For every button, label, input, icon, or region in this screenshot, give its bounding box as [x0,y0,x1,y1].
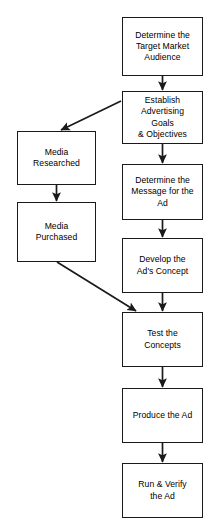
node-label: Develop the Ad's Concept [134,254,191,276]
node-develop-ads-concept[interactable]: Develop the Ad's Concept [122,238,203,293]
flowchart-canvas: Determine the Target Market Audience Est… [0,0,222,527]
node-label: Establish Advertising Goals & Objectives [135,95,190,140]
node-produce-the-ad[interactable]: Produce the Ad [122,388,203,443]
node-label: Run & Verify the Ad [135,479,189,501]
node-label: Media Researched [30,147,83,169]
connector-establish-to-media-researched [61,101,121,130]
node-determine-target-market-audience[interactable]: Determine the Target Market Audience [122,17,203,76]
node-label: Media Purchased [33,221,81,243]
node-determine-message-for-the-ad[interactable]: Determine the Message for the Ad [122,164,203,220]
node-run-and-verify-the-ad[interactable]: Run & Verify the Ad [122,463,203,518]
node-label: Test the Concepts [141,328,184,350]
node-label: Produce the Ad [130,410,195,421]
node-media-purchased[interactable]: Media Purchased [17,202,96,262]
node-test-the-concepts[interactable]: Test the Concepts [122,312,203,367]
node-media-researched[interactable]: Media Researched [17,131,96,185]
node-label: Determine the Target Market Audience [132,30,193,64]
node-label: Determine the Message for the Ad [128,175,196,209]
node-establish-advertising-goals-objectives[interactable]: Establish Advertising Goals & Objectives [122,91,203,144]
